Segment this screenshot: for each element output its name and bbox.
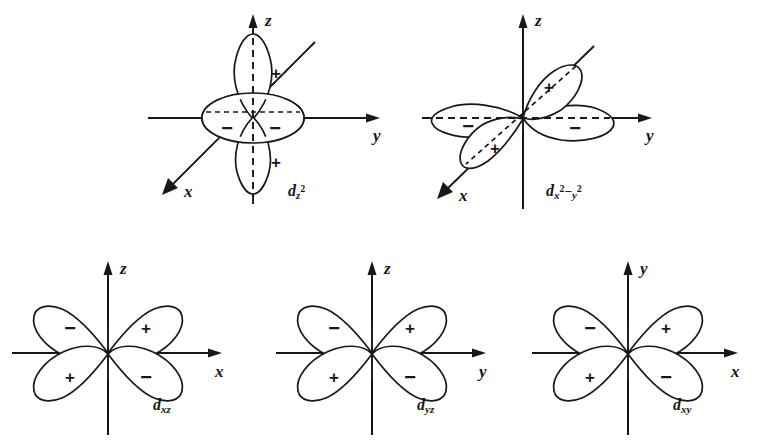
orbital-label-dxz-sub: xz: [161, 403, 171, 415]
dxy-sign-lower-right: −: [660, 366, 672, 388]
orbital-label-dz2-sup: 2: [300, 183, 305, 194]
dyz-sign-lower-left: +: [329, 368, 339, 387]
orbital-label-dx2y2-sep: −: [565, 184, 572, 199]
z-axis-arrowhead: [249, 14, 258, 28]
dx2y2-sign-right: −: [569, 117, 581, 139]
d-orbital-figure: + + − − z y x dz2: [0, 0, 775, 442]
dyz-axis-label-y: y: [477, 362, 487, 381]
dyz-sign-upper-left: −: [328, 317, 340, 339]
dxy-sign-lower-left: +: [585, 368, 595, 387]
orbital-label-dxz: dxz: [153, 396, 171, 415]
dx2y2-axis-label-x: x: [458, 186, 468, 205]
dyz-sign-upper-right: +: [405, 319, 415, 338]
dz2-sign-torus-right: −: [269, 117, 281, 139]
dz2-axis-label-x: x: [183, 182, 193, 201]
x-axis-arrowhead: [208, 349, 222, 358]
dz2-svg: + + − − z y x: [140, 4, 410, 219]
orbital-diagram-dxz: − + + − z x dxz: [8, 253, 258, 441]
dyz-axis-label-z: z: [383, 259, 391, 278]
orbital-label-dxy-sub: xy: [681, 403, 691, 415]
orbital-label-dz2-d: d: [288, 182, 296, 199]
dz2-sign-bottom: +: [271, 153, 281, 172]
dxz-axis-label-x: x: [214, 362, 224, 381]
dxz-sign-upper-right: +: [141, 319, 151, 338]
z-axis-arrowhead: [519, 14, 528, 28]
y-axis-arrowhead: [366, 114, 380, 123]
orbital-label-dyz: dyz: [417, 396, 434, 415]
dz2-axis-label-y: y: [371, 126, 381, 145]
dx2y2-sign-upper-right: +: [544, 78, 554, 97]
dxz-sign-lower-right: −: [140, 366, 152, 388]
dz2-sign-torus-left: −: [221, 117, 233, 139]
dxz-svg: − + + − z x: [8, 253, 258, 441]
orbital-label-dyz-sub: yz: [425, 403, 434, 415]
dxy-axis-label-x: x: [730, 362, 740, 381]
orbital-label-dx2-y2: dx2−y2: [546, 182, 582, 201]
dyz-svg: − + + − z y: [272, 253, 522, 441]
orbital-diagram-dyz: − + + − z y dyz: [272, 253, 522, 441]
dyz-sign-lower-right: −: [404, 366, 416, 388]
dxy-axis-label-y: y: [638, 259, 648, 278]
orbital-diagram-dz2: + + − − z y x dz2: [140, 4, 410, 219]
dx2y2-axis-label-y: y: [644, 126, 654, 145]
orbital-label-dx2y2-sup2: 2: [577, 183, 582, 194]
orbital-label-dxy-d: d: [673, 396, 681, 413]
dxy-svg: − + + − y x: [528, 253, 773, 441]
z-axis-arrowhead: [368, 261, 377, 275]
y-axis-arrowhead: [472, 349, 486, 358]
orbital-label-dx2y2-d: d: [546, 182, 554, 199]
z-axis-arrowhead: [104, 261, 113, 275]
y-axis-arrowhead: [624, 261, 633, 275]
y-axis-arrowhead: [638, 114, 652, 123]
orbital-label-dyz-d: d: [417, 396, 425, 413]
dxz-sign-upper-left: −: [64, 317, 76, 339]
dz2-sign-top: +: [271, 64, 281, 83]
dxy-sign-upper-right: +: [661, 319, 671, 338]
x-axis-arrowhead: [724, 349, 738, 358]
dx2y2-sign-left: −: [462, 115, 474, 137]
dxz-sign-lower-left: +: [65, 368, 75, 387]
orbital-label-dz2: dz2: [288, 182, 305, 201]
orbital-diagram-dx2-y2: + + − − z y x dx2−y2: [418, 4, 698, 219]
dx2y2-sign-lower-left: +: [490, 139, 500, 158]
orbital-label-dxy: dxy: [673, 396, 691, 415]
dxy-sign-upper-left: −: [584, 317, 596, 339]
dxz-axis-label-z: z: [119, 259, 127, 278]
dz2-axis-label-z: z: [264, 11, 272, 30]
orbital-diagram-dxy: − + + − y x dxy: [528, 253, 773, 441]
dx2y2-axis-label-z: z: [534, 11, 542, 30]
orbital-label-dxz-d: d: [153, 396, 161, 413]
